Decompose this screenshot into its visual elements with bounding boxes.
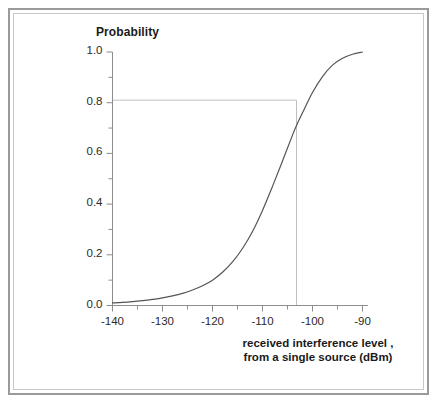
chart-plot-area: Probability received interference level … <box>0 0 437 403</box>
x-tick-label: -110 <box>243 315 283 327</box>
y-tick-label: 0.8 <box>73 95 103 107</box>
x-axis-title: received interference level , from a sin… <box>228 336 408 364</box>
y-tick-label: 0.0 <box>73 298 103 310</box>
x-axis-title-line1: received interference level , <box>228 336 408 350</box>
x-axis-title-line2: from a single source (dBm) <box>228 350 408 364</box>
x-tick-label: -130 <box>143 315 183 327</box>
y-tick-label: 0.4 <box>73 196 103 208</box>
x-tick-label: -140 <box>93 315 133 327</box>
axis-lines <box>112 52 368 306</box>
x-tick-label: -90 <box>343 315 383 327</box>
y-axis-ticks <box>107 52 113 306</box>
y-tick-label: 0.6 <box>73 145 103 157</box>
x-axis-ticks <box>113 306 363 312</box>
x-tick-label: -120 <box>193 315 233 327</box>
y-tick-label: 1.0 <box>73 44 103 56</box>
y-axis-title: Probability <box>96 25 159 39</box>
reference-lines <box>113 100 297 305</box>
y-tick-label: 0.2 <box>73 247 103 259</box>
series-line-cumulative-probability <box>113 52 363 303</box>
x-tick-label: -100 <box>293 315 333 327</box>
